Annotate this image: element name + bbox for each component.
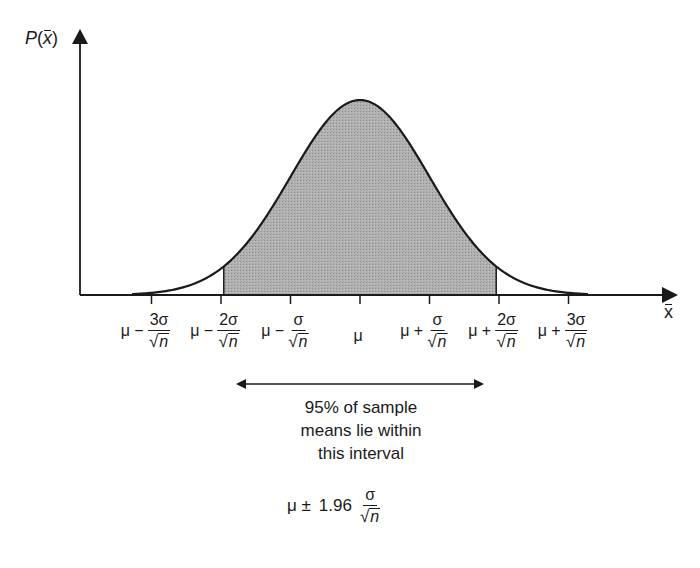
annotation-line-1: 95% of sample bbox=[236, 396, 486, 419]
interval-annotation: 95% of sample means lie within this inte… bbox=[236, 396, 486, 465]
tick-label: μ −3σ√n bbox=[121, 312, 171, 350]
tick-label: μ +2σ√n bbox=[468, 312, 518, 350]
x-bar-symbol: x bbox=[43, 28, 52, 49]
annotation-line-3: this interval bbox=[236, 442, 486, 465]
formula-coef: 1.96 bbox=[319, 496, 352, 516]
shaded-95-percent-region bbox=[224, 100, 496, 295]
tick-label: μ −σ√n bbox=[261, 312, 308, 350]
y-axis-label: P(x) bbox=[25, 28, 58, 49]
x-axis-arrow-icon bbox=[662, 287, 678, 303]
interval-formula: μ ± 1.96 σ √n bbox=[287, 487, 380, 525]
tick-label: μ −2σ√n bbox=[190, 312, 240, 350]
formula-prefix: μ ± bbox=[287, 496, 311, 516]
x-axis-label: x bbox=[664, 302, 673, 323]
x-axis-ticks bbox=[152, 295, 569, 304]
formula-fraction: σ √n bbox=[360, 487, 380, 525]
interval-arrow-left-icon bbox=[236, 379, 246, 389]
y-axis-arrow-icon bbox=[72, 29, 88, 44]
interval-arrow-right-icon bbox=[474, 379, 484, 389]
tick-label: μ bbox=[353, 327, 366, 345]
tick-label: μ +σ√n bbox=[400, 312, 447, 350]
tick-label: μ +3σ√n bbox=[538, 312, 588, 350]
normal-curve-plot bbox=[0, 0, 700, 568]
annotation-line-2: means lie within bbox=[236, 419, 486, 442]
